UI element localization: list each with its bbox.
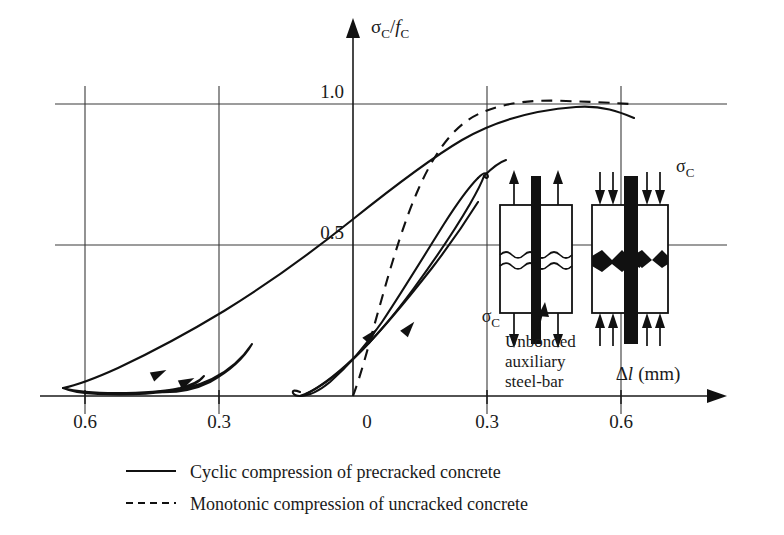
svg-text:Δl(mm): Δl(mm) (616, 363, 681, 385)
figure-container: 0.6 0.3 0 0.3 0.6 1.0 0.5 σC/fC Δl(mm) (0, 0, 784, 535)
left-specimen-steel-bar (531, 176, 541, 344)
legend-label-monotonic: Monotonic compression of uncracked concr… (190, 494, 528, 514)
y-axis-f-sub: C (400, 26, 409, 41)
x-tick-label-pos-0.3: 0.3 (475, 411, 499, 432)
curve-origin-branch (293, 391, 300, 396)
x-tick-label-neg-0.3: 0.3 (207, 411, 231, 432)
x-axis-title: Δl(mm) (616, 363, 681, 385)
inset-left-specimen: σC (482, 170, 572, 348)
left-specimen-stress-label: σC (482, 306, 500, 330)
annotation-line-1: Unbonded (505, 332, 576, 351)
curve-monotonic-uncracked (353, 101, 630, 396)
x-axis-units: (mm) (638, 363, 680, 385)
x-tick-label-zero: 0 (362, 411, 372, 432)
y-axis-sigma-sub: C (381, 26, 390, 41)
legend: Cyclic compression of precracked concret… (126, 462, 528, 514)
annotation-line-3: steel-bar (505, 372, 564, 391)
curve-loop-3-unload (300, 178, 478, 396)
direction-arrow-1 (150, 365, 169, 381)
curve-loop-2 (156, 344, 252, 392)
y-tick-label-0.5: 0.5 (320, 222, 344, 243)
x-tick-label-neg-0.6: 0.6 (73, 411, 97, 432)
y-axis-arrowhead (346, 18, 360, 38)
x-axis-arrowhead (707, 389, 727, 403)
legend-label-cyclic: Cyclic compression of precracked concret… (190, 462, 501, 482)
y-tick-label-1.0: 1.0 (320, 81, 344, 102)
x-axis-delta: Δ (616, 363, 628, 384)
right-specimen-stress-label: σC (676, 156, 694, 180)
inset-right-specimen: σC (592, 156, 694, 346)
steel-bar-annotation: Unbonded auxiliary steel-bar (505, 302, 576, 391)
annotation-line-2: auxiliary (505, 352, 566, 371)
y-axis-title: σC/fC (371, 16, 409, 41)
right-specimen-steel-bar (624, 176, 638, 344)
direction-arrow-4 (400, 319, 418, 338)
x-axis-l: l (628, 363, 633, 384)
curve-loop-3-reload (300, 176, 484, 396)
x-tick-label-pos-0.6: 0.6 (609, 411, 633, 432)
svg-text:σC/fC: σC/fC (371, 16, 409, 41)
y-axis-sigma: σ (371, 16, 381, 37)
stress-displacement-chart: 0.6 0.3 0 0.3 0.6 1.0 0.5 σC/fC Δl(mm) (0, 0, 784, 535)
